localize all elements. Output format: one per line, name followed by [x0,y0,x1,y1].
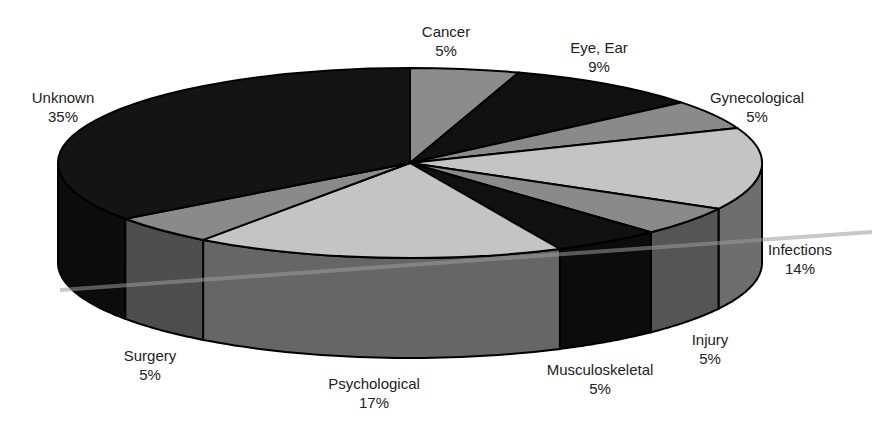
slice-percent: 5% [124,365,177,384]
slice-name: Gynecological [710,88,804,107]
slice-name: Injury [692,330,729,349]
slice-percent: 5% [692,349,729,368]
slice-name: Unknown [32,88,95,107]
data-label-psychological: Psychological17% [328,374,420,412]
slice-name: Infections [768,240,832,259]
slice-percent: 5% [547,379,654,398]
slice-name: Cancer [422,22,470,41]
slice-percent: 9% [570,57,628,76]
slice-percent: 17% [328,393,420,412]
data-label-musculoskeletal: Musculoskeletal5% [547,360,654,398]
data-label-cancer: Cancer5% [422,22,470,60]
slice-percent: 5% [710,107,804,126]
data-label-gynecological: Gynecological5% [710,88,804,126]
data-label-infections: Infections14% [768,240,832,278]
slice-percent: 14% [768,259,832,278]
data-label-injury: Injury5% [692,330,729,368]
slice-name: Psychological [328,374,420,393]
data-label-eye-ear: Eye, Ear9% [570,38,628,76]
slice-name: Surgery [124,346,177,365]
slice-percent: 35% [32,107,95,126]
data-label-unknown: Unknown35% [32,88,95,126]
slice-name: Musculoskeletal [547,360,654,379]
slice-percent: 5% [422,41,470,60]
pie-tops [58,68,762,258]
data-label-surgery: Surgery5% [124,346,177,384]
slice-name: Eye, Ear [570,38,628,57]
